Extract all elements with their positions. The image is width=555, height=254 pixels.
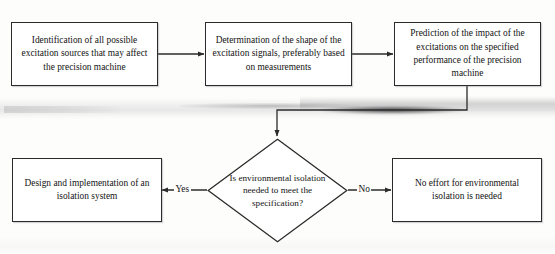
node-identification-label: Identification of all possible excitatio… — [18, 34, 151, 74]
node-decision: Is environmental isolation needed to mee… — [207, 138, 348, 243]
node-prediction: Prediction of the impact of the excitati… — [394, 22, 541, 86]
node-no-effort: No effort for environmental isolation is… — [392, 158, 542, 222]
node-prediction-label: Prediction of the impact of the excitati… — [401, 27, 534, 80]
node-determination: Determination of the shape of the excita… — [205, 22, 352, 86]
edge-label-yes: Yes — [174, 185, 191, 194]
node-decision-label: Is environmental isolation needed to mee… — [225, 171, 330, 209]
connector-prediction-to-decision — [277, 86, 467, 136]
edge-label-no: No — [357, 185, 371, 194]
node-determination-label: Determination of the shape of the excita… — [212, 34, 345, 74]
node-design-label: Design and implementation of an isolatio… — [19, 177, 155, 204]
flowchart-canvas: Identification of all possible excitatio… — [0, 0, 555, 254]
node-identification: Identification of all possible excitatio… — [11, 22, 158, 86]
node-design: Design and implementation of an isolatio… — [12, 158, 162, 222]
node-no-effort-label: No effort for environmental isolation is… — [399, 177, 535, 204]
